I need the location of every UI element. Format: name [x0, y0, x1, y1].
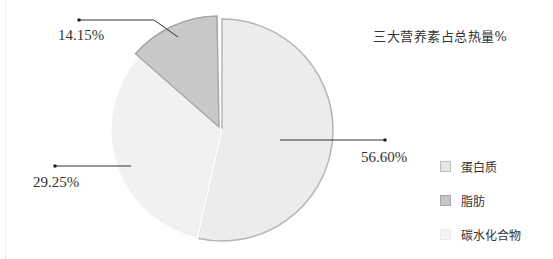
label-protein: 56.60% — [361, 149, 407, 166]
legend-item-fat[interactable]: 脂肪 — [440, 183, 521, 217]
legend-item-protein[interactable]: 蛋白质 — [440, 149, 521, 183]
legend-swatch-icon — [440, 161, 451, 172]
chart-title: 三大营养素占总热量% — [373, 26, 507, 45]
label-carbs: 29.25% — [33, 174, 79, 191]
legend-swatch-icon — [440, 229, 451, 240]
legend-label: 脂肪 — [461, 192, 485, 209]
legend: 蛋白质 脂肪 碳水化合物 — [440, 149, 521, 251]
legend-label: 碳水化合物 — [461, 226, 521, 243]
legend-swatch-icon — [440, 195, 451, 206]
label-fat: 14.15% — [58, 27, 104, 44]
legend-item-carbs[interactable]: 碳水化合物 — [440, 217, 521, 251]
legend-label: 蛋白质 — [461, 158, 497, 175]
